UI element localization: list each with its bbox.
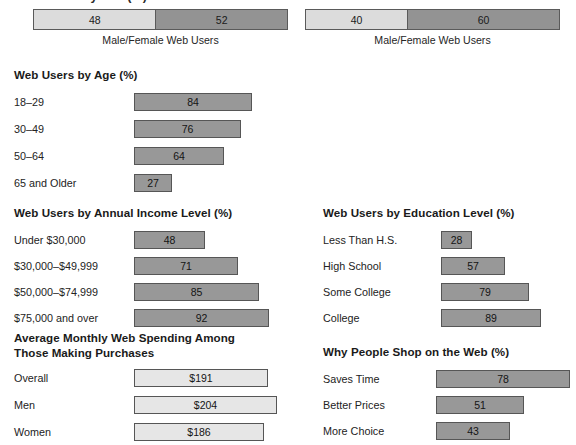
bar: 28 [441,231,472,249]
bar-row: High School57 [323,257,576,275]
bar: 89 [441,309,541,327]
bar-row-label: 50–64 [14,148,44,164]
bar-row: 65 and Older27 [14,174,289,192]
bar: 27 [134,174,172,192]
stacked-bar: 40 60 [305,9,560,30]
bar-row: College89 [323,309,576,327]
bar: 85 [134,283,259,301]
bar: 48 [134,231,205,249]
bar-row-label: Less Than H.S. [323,232,397,248]
bar-row: Less Than H.S.28 [323,231,576,249]
bar-row-label: Men [14,397,35,413]
bar-row: 30–4976 [14,120,289,138]
bar: 57 [441,257,505,275]
bar: 51 [436,396,524,414]
bar-list-income: Under $30,00048$30,000–$49,99971$50,000–… [14,231,289,337]
bar-row-label: 65 and Older [14,175,76,191]
stacked-bar: 48 52 [33,9,288,30]
bar-row: 50–6464 [14,147,289,165]
bar-row-label: More Choice [323,423,384,439]
bar: $204 [134,396,277,414]
stacked-segment-male: 48 [34,10,155,29]
bar-row-label: Better Prices [323,397,385,413]
bar: 43 [436,422,510,440]
bar-list-age: 18–298430–497650–646465 and Older27 [14,93,289,199]
section-title-shopping: Why People Shop on the Web (%) [323,345,576,360]
bar-row: Some College79 [323,283,576,301]
bar-row-label: $75,000 and over [14,310,98,326]
bar-row: Under $30,00048 [14,231,289,249]
bar: 76 [134,120,241,138]
bar: 78 [436,370,570,388]
section-income: Web Users by Annual Income Level (%) Und… [14,206,289,337]
stacked-segment-female: 60 [407,10,559,29]
bar-row: Women$186 [14,423,289,441]
clipped-page-title: Web Users by Sex (%) [14,0,147,3]
bar-row-label: High School [323,258,381,274]
bar-row-label: Some College [323,284,391,300]
bar: $191 [134,369,268,387]
bar-list-education: Less Than H.S.28High School57Some Colleg… [323,231,576,337]
bar-list-spending: Overall$191Men$204Women$186 [14,369,289,445]
stacked-segment-male: 40 [306,10,407,29]
bar: 79 [441,283,529,301]
bar-row: Better Prices51 [323,396,576,414]
bar-row-label: $30,000–$49,999 [14,258,98,274]
bar-row: $75,000 and over92 [14,309,289,327]
stacked-segment-female: 52 [155,10,287,29]
bar-row-label: Overall [14,370,48,386]
bar-row-label: Women [14,424,51,440]
bar-row-label: Saves Time [323,371,379,387]
bar: 71 [134,257,238,275]
bar-row-label: College [323,310,360,326]
section-title-income: Web Users by Annual Income Level (%) [14,206,289,221]
stacked-chart-caption: Male/Female Web Users [305,34,560,46]
bar-row: Saves Time78 [323,370,576,388]
bar-row: $30,000–$49,99971 [14,257,289,275]
bar-row-label: 30–49 [14,121,44,137]
bar-row: Men$204 [14,396,289,414]
section-education: Web Users by Education Level (%) Less Th… [323,206,576,337]
bar-list-shopping: Saves Time78Better Prices51More Choice43 [323,370,576,445]
section-title-education: Web Users by Education Level (%) [323,206,576,221]
bar-row: 18–2984 [14,93,289,111]
section-title-age: Web Users by Age (%) [14,68,289,83]
bar: 84 [134,93,252,111]
bar: $186 [134,423,264,441]
section-shopping: Why People Shop on the Web (%) Saves Tim… [323,345,576,445]
section-age: Web Users by Age (%) 18–298430–497650–64… [14,68,289,199]
bar: 92 [134,309,269,327]
bar-row-label: $50,000–$74,999 [14,284,98,300]
section-spending: Average Monthly Web Spending Among Those… [14,331,289,445]
bar-row: More Choice43 [323,422,576,440]
bar-row-label: 18–29 [14,94,44,110]
bar: 64 [134,147,224,165]
bar-row: Overall$191 [14,369,289,387]
bar-row: $50,000–$74,99985 [14,283,289,301]
section-title-spending: Average Monthly Web Spending Among Those… [14,331,289,360]
stacked-chart-caption: Male/Female Web Users [33,34,288,46]
bar-row-label: Under $30,000 [14,232,85,248]
